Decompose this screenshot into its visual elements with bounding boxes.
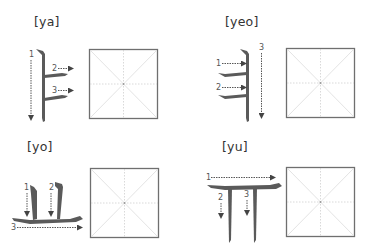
stroke-number-3: 3 (259, 43, 264, 52)
stroke-order-arrows-yo: 1 2 3 (11, 183, 80, 232)
stroke-number-1: 1 (24, 183, 29, 192)
character-yeo-strokes (218, 49, 249, 122)
stroke-number-1: 1 (216, 59, 221, 68)
stroke-number-1: 1 (29, 50, 34, 59)
stroke-number-2: 2 (218, 193, 223, 202)
practice-box-yu[interactable] (287, 168, 355, 237)
practice-box-yeo[interactable] (287, 49, 355, 118)
stroke-number-3: 3 (244, 190, 249, 199)
stroke-number-2: 2 (216, 83, 221, 92)
stroke-number-3: 3 (11, 223, 16, 232)
character-yo-strokes (12, 182, 83, 224)
cell-yu: 1 2 3 (206, 168, 355, 244)
stroke-order-arrows-yeo: 1 2 3 (216, 43, 264, 116)
cell-yeo: 1 2 3 (216, 43, 355, 122)
practice-box-yo[interactable] (91, 169, 159, 238)
cell-ya: 1 2 3 (29, 49, 158, 122)
stroke-number-2: 2 (52, 64, 57, 73)
cell-yo: 1 2 3 (11, 169, 159, 238)
stroke-order-arrows-ya: 1 2 3 (29, 50, 71, 118)
stroke-number-2: 2 (49, 183, 54, 192)
stroke-number-3: 3 (52, 86, 57, 95)
stroke-number-1: 1 (206, 173, 211, 182)
diagram-canvas: 1 2 3 1 2 3 (0, 0, 367, 251)
stroke-order-arrows-yu: 1 2 3 (206, 173, 273, 216)
practice-box-ya[interactable] (90, 50, 158, 119)
